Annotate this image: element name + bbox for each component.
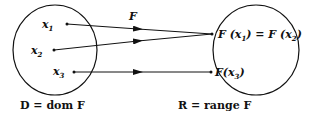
svg-text:x2: x2 — [30, 44, 43, 59]
range-caption: R = range F — [178, 99, 251, 112]
arrow-x2-to-fx2 — [54, 34, 212, 50]
svg-text:F(x3): F(x3) — [214, 66, 245, 81]
point-fx1 — [211, 33, 214, 36]
svg-text:x3: x3 — [52, 65, 65, 80]
function-mapping-diagram: F x1 x2 x3 F (x1) = F (x2) F(x3) D — [0, 0, 324, 116]
domain-element-x3: x3 — [52, 65, 76, 80]
range-image-fx1-eq-fx2: F (x1) = F (x2) — [211, 28, 302, 43]
point-fx3 — [210, 71, 213, 74]
svg-text:x1: x1 — [41, 18, 53, 33]
domain-caption: D = dom F — [20, 99, 85, 112]
range-set-circle — [213, 5, 299, 95]
svg-text:F (x1) = F (x2): F (x1) = F (x2) — [217, 28, 302, 43]
map-label-f: F — [128, 10, 138, 23]
domain-element-x2: x2 — [30, 44, 56, 59]
domain-element-x1: x1 — [41, 18, 69, 33]
arrow-x1-to-fx1 — [67, 24, 212, 34]
range-image-fx3: F(x3) — [210, 66, 245, 81]
